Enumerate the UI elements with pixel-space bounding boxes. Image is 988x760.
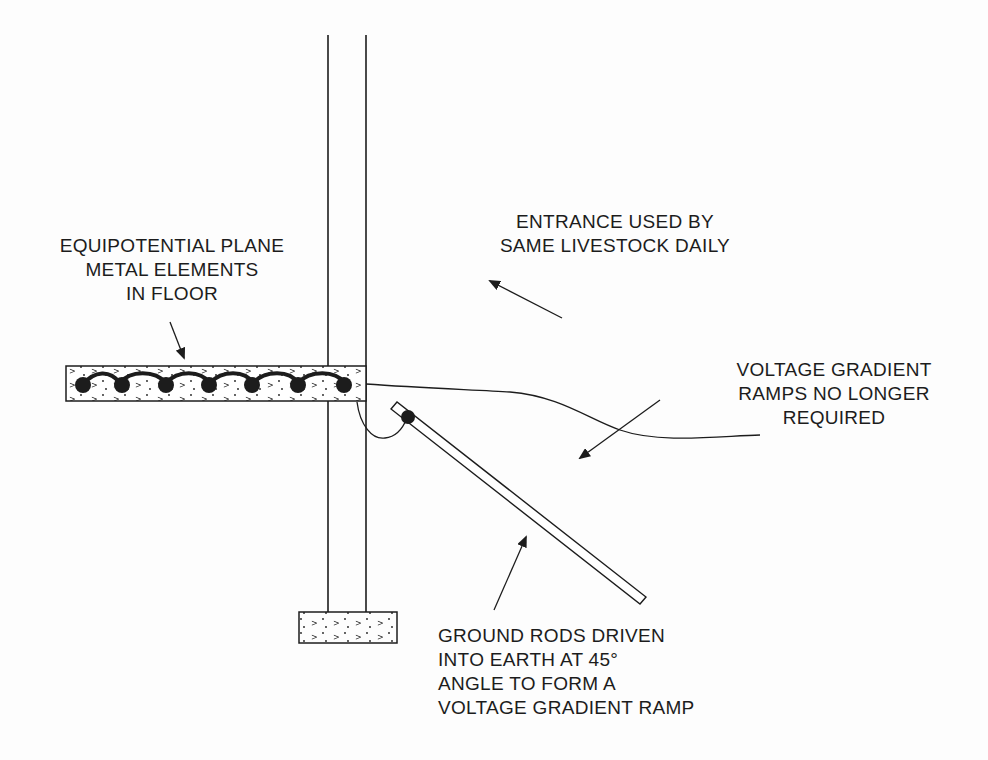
label-line: RAMPS NO LONGER (700, 382, 968, 406)
label-equipotential-plane: EQUIPOTENTIAL PLANE METAL ELEMENTS IN FL… (48, 234, 296, 306)
label-line: VOLTAGE GRADIENT (700, 358, 968, 382)
arrow-entrance (490, 281, 562, 318)
diagram-canvas: > (0, 0, 988, 760)
label-ramps-not-required: VOLTAGE GRADIENT RAMPS NO LONGER REQUIRE… (700, 358, 968, 430)
label-line: ANGLE TO FORM A (438, 672, 695, 696)
arrow-ground-rods (494, 537, 526, 610)
wall-post (328, 35, 366, 612)
label-line: GROUND RODS DRIVEN (438, 624, 695, 648)
arrow-ramps (580, 400, 660, 458)
arrow-equipotential (170, 322, 184, 358)
label-line: REQUIRED (700, 406, 968, 430)
label-line: IN FLOOR (48, 282, 296, 306)
label-line: ENTRANCE USED BY (470, 210, 760, 234)
label-entrance: ENTRANCE USED BY SAME LIVESTOCK DAILY (470, 210, 760, 258)
label-line: METAL ELEMENTS (48, 258, 296, 282)
ground-rod (391, 402, 646, 604)
label-line: VOLTAGE GRADIENT RAMP (438, 696, 695, 720)
label-ground-rods: GROUND RODS DRIVEN INTO EARTH AT 45° ANG… (438, 624, 695, 720)
label-line: INTO EARTH AT 45° (438, 648, 695, 672)
label-line: SAME LIVESTOCK DAILY (470, 234, 760, 258)
concrete-footing (299, 612, 397, 643)
label-line: EQUIPOTENTIAL PLANE (48, 234, 296, 258)
